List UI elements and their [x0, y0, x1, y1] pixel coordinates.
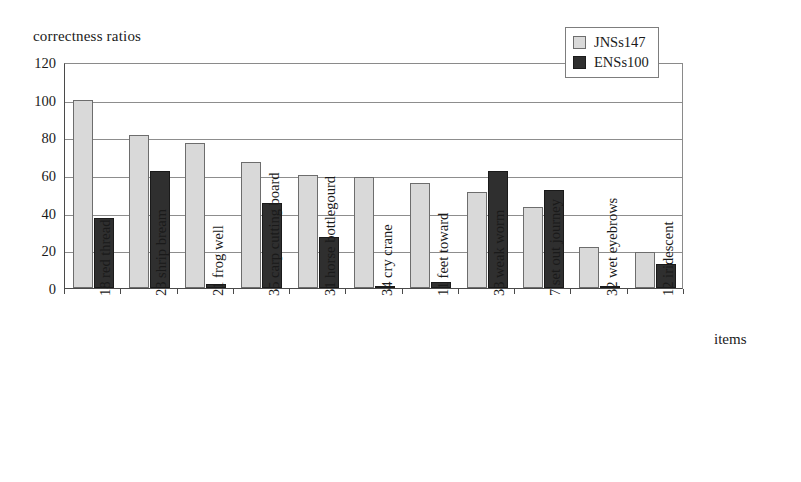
x-tick-mark-1 [177, 289, 178, 294]
bar-jnss147-3 [241, 162, 261, 288]
x-tick-mark-7 [514, 289, 515, 294]
legend-entry-1: ENSs100 [573, 52, 649, 72]
x-tick-mark-3 [289, 289, 290, 294]
bar-jnss147-8 [523, 207, 543, 288]
x-tick-mark-2 [233, 289, 234, 294]
x-category-label-10: 12 iridescent [661, 222, 676, 297]
y-tick-label-120: 120 [34, 56, 56, 71]
x-category-label-4: 31 horse bottlegourd [323, 176, 338, 296]
x-tick-mark-0 [120, 289, 121, 294]
bar-jnss147-0 [73, 100, 93, 288]
x-category-label-7: 33 weak worm [492, 210, 507, 296]
chart-legend: JNSs147 ENSs100 [565, 27, 659, 78]
y-tick-label-20: 20 [42, 244, 57, 259]
x-tick-mark-9 [627, 289, 628, 294]
y-tick-label-100: 100 [34, 94, 56, 109]
x-category-label-8: 7 set out journey [548, 199, 563, 296]
y-tick-label-40: 40 [42, 207, 57, 222]
x-tick-mark-6 [458, 289, 459, 294]
x-axis-caption: items [714, 331, 747, 348]
y-tick-label-60: 60 [42, 169, 57, 184]
x-category-label-2: 21 frog well [211, 225, 226, 296]
x-category-label-5: 34 cry crane [380, 224, 395, 296]
bar-jnss147-10 [635, 252, 655, 288]
bar-chart-figure: correctness ratios 020406080100120 18 re… [0, 0, 801, 482]
x-category-label-1: 23 shrip bream [154, 209, 169, 296]
x-tick-mark-8 [570, 289, 571, 294]
bar-jnss147-1 [129, 135, 149, 288]
x-tick-mark-10 [683, 289, 684, 294]
y-tick-label-80: 80 [42, 131, 57, 146]
bar-group [121, 64, 177, 288]
x-tick-mark-5 [402, 289, 403, 294]
bar-jnss147-6 [410, 183, 430, 288]
bar-jnss147-4 [298, 175, 318, 288]
bar-jnss147-9 [579, 247, 599, 288]
legend-label-enss100: ENSs100 [594, 54, 649, 71]
legend-entry-0: JNSs147 [573, 32, 649, 52]
x-tick-mark-4 [345, 289, 346, 294]
legend-swatch-jnss147 [573, 36, 586, 49]
bar-jnss147-2 [185, 143, 205, 288]
y-tick-label-0: 0 [49, 282, 56, 297]
x-category-label-0: 18 red thread [98, 220, 113, 297]
x-category-label-3: 35 carp cutting board [267, 172, 282, 296]
legend-swatch-enss100 [573, 56, 586, 69]
x-tick-mark-origin [64, 289, 65, 294]
y-axis-tick-labels: 020406080100120 [0, 0, 56, 482]
bar-jnss147-7 [467, 192, 487, 288]
bar-jnss147-5 [354, 177, 374, 288]
x-category-label-6: 11 feet toward [436, 213, 451, 296]
x-category-label-9: 32 wet eyebrows [605, 198, 620, 296]
legend-label-jnss147: JNSs147 [594, 34, 646, 51]
